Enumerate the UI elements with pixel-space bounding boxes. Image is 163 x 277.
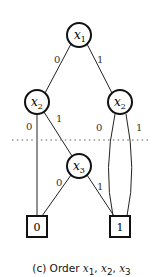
edge-label-x3-1: 1 <box>97 181 103 192</box>
node-x1: x1 <box>67 23 91 47</box>
caption-sub: 1 <box>89 267 95 277</box>
edge-x2-right-0-to-1 <box>108 114 115 216</box>
edge-label-x2r-1: 1 <box>136 122 142 133</box>
terminal-1: 1 <box>110 216 130 237</box>
node-x3: x3 <box>67 154 91 178</box>
node-x2-right: x2 <box>108 90 132 114</box>
caption-sub: 3 <box>125 267 131 277</box>
svg-text:0: 0 <box>34 221 41 234</box>
edges <box>37 44 132 216</box>
figure-caption: (c) Order x1, x2, x3 <box>0 262 163 277</box>
caption-prefix: (c) Order <box>32 262 82 274</box>
edge-label-x2l-0: 0 <box>26 121 32 132</box>
caption-sub: 2 <box>107 267 113 277</box>
edge-x2-right-1-to-1 <box>126 114 132 216</box>
node-x2-left: x2 <box>25 90 49 114</box>
edge-x1-x2-right <box>87 44 112 93</box>
edge-label-x2l-1: 1 <box>56 113 62 124</box>
terminal-0: 0 <box>27 216 47 237</box>
edge-label-x2r-0: 0 <box>96 122 102 133</box>
edge-label-x3-0: 0 <box>56 177 62 188</box>
edge-label-x1-0: 0 <box>54 54 60 65</box>
bdd-diagram: 0 1 0 1 0 1 0 1 x1 x2 x2 x3 0 1 <box>0 0 163 277</box>
edge-label-x1-1: 1 <box>97 54 103 65</box>
edge-x1-x2-left <box>45 44 71 93</box>
svg-text:1: 1 <box>117 221 124 234</box>
